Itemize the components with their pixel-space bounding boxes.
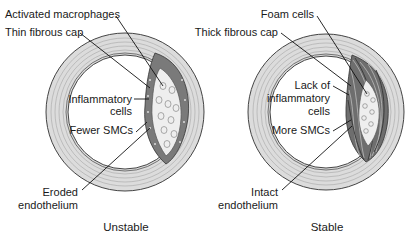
label-thin-fibrous-cap: Thin fibrous cap [5, 26, 83, 38]
label-intact: Intact [251, 186, 278, 198]
label-intact-endothelium: endothelium [218, 199, 278, 211]
label-lack-of: Lack of [295, 79, 331, 91]
label-more-smcs: More SMCs [272, 124, 331, 136]
label-inflammatory: inflammatory [267, 92, 330, 104]
label-inflammatory-cells: cells [110, 105, 133, 117]
label-eroded-endothelium: endothelium [18, 199, 78, 211]
label-fewer-smcs: Fewer SMCs [69, 124, 133, 136]
label-inflammatory: Inflammatory [68, 93, 132, 105]
plaque-comparison-diagram: Activated macrophages Thin fibrous cap I… [0, 0, 416, 243]
caption-unstable: Unstable [103, 221, 148, 233]
label-thick-fibrous-cap: Thick fibrous cap [195, 26, 278, 38]
label-eroded: Eroded [43, 186, 78, 198]
label-foam-cells: Foam cells [261, 8, 315, 20]
label-inflammatory-cells: cells [308, 105, 331, 117]
caption-stable: Stable [311, 221, 344, 233]
label-activated-macrophages: Activated macrophages [5, 8, 120, 20]
